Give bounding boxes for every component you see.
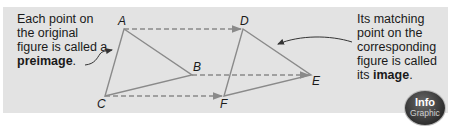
vertex-label-a: A — [117, 14, 126, 28]
vertex-label-c: C — [97, 97, 106, 111]
vertex-label-f: F — [220, 97, 228, 111]
vertex-label-e: E — [312, 74, 321, 88]
image-callout-arrow — [278, 37, 352, 44]
vertex-label-b: B — [193, 60, 201, 74]
badge-line2: Graphic — [405, 108, 445, 118]
preimage-triangle — [105, 29, 192, 96]
badge-line1: Info — [405, 97, 445, 108]
infographic-badge: Info Graphic — [405, 91, 445, 125]
translation-diagram: A B C D E F — [0, 0, 453, 128]
image-triangle — [224, 29, 311, 96]
vertex-label-d: D — [240, 14, 249, 28]
preimage-callout-arrow — [85, 50, 112, 65]
